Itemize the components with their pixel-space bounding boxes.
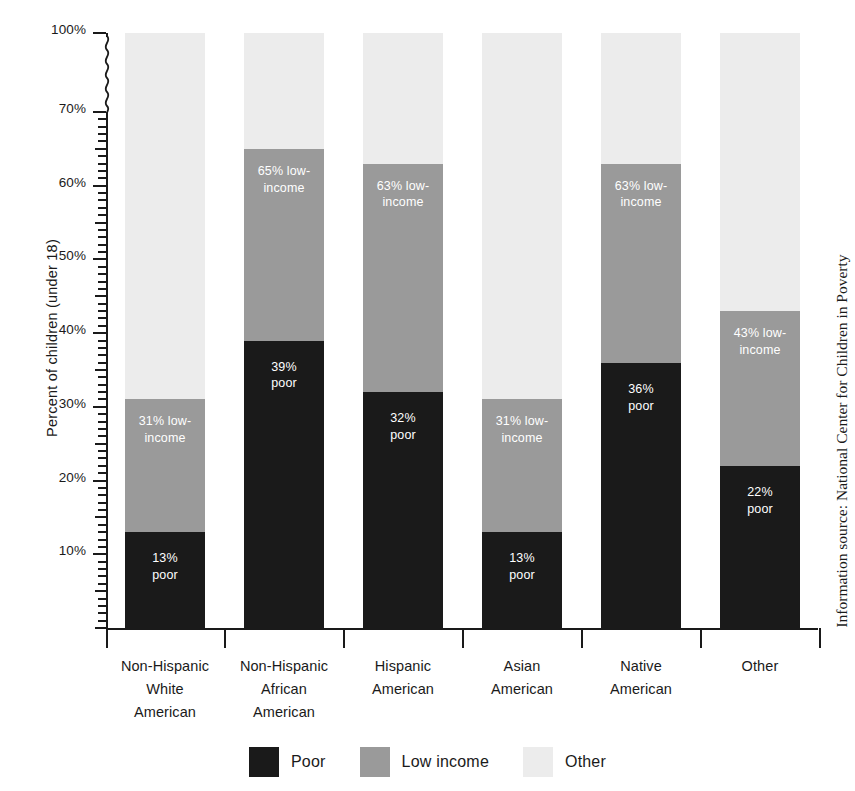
bar-1[interactable]: 31% low- income13% poor [125,33,205,628]
y-tick-minor [98,362,106,364]
x-axis-label-4: Asian American [463,655,581,701]
legend-item-poor[interactable]: Poor [249,747,326,777]
bar-segment-low-income: 63% low- income [363,164,443,393]
y-tick-minor [98,421,106,423]
y-tick-minor [95,369,106,371]
legend-swatch-icon [523,747,553,777]
bar-3[interactable]: 63% low- income32% poor [363,33,443,628]
y-tick-minor [98,391,106,393]
bar-label-poor: 36% poor [628,381,654,415]
y-tick-100: 100% [93,32,106,34]
bar-segment-poor: 13% poor [482,532,562,628]
bar-2[interactable]: 65% low- income39% poor [244,33,324,628]
y-tick-label: 20% [59,470,86,485]
y-tick-minor [98,140,106,142]
y-tick-10: 10% [93,553,106,555]
bar-4[interactable]: 31% low- income13% poor [482,33,562,628]
y-tick-minor [98,384,106,386]
y-tick-minor [98,303,106,305]
y-tick-minor [98,155,106,157]
x-axis-divider [106,628,108,648]
bar-segment-other [720,33,800,311]
y-tick-minor [98,450,106,452]
y-tick-minor [98,281,106,283]
y-tick-minor [98,214,106,216]
legend-label: Low income [402,753,489,771]
y-tick-minor [98,546,106,548]
y-tick-minor [98,133,106,135]
y-tick-minor [98,620,106,622]
y-tick-minor [98,244,106,246]
y-tick-minor [98,524,106,526]
bar-label-low-income: 43% low- income [734,325,787,359]
bar-label-poor: 22% poor [747,484,773,518]
x-axis-divider [343,628,345,648]
y-tick-minor [95,148,106,150]
bar-segment-low-income: 31% low- income [125,399,205,532]
y-tick-minor [98,509,106,511]
y-tick-minor [98,354,106,356]
x-axis-divider [819,628,821,648]
y-axis-title: Percent of children (under 18) [44,188,60,488]
bar-segment-poor: 36% poor [601,363,681,628]
x-axis-divider [700,628,702,648]
source-note: Information source: National Center for … [833,61,851,791]
chart-plot-area: 100%70%60%50%40%30%20%10% 31% low- incom… [106,33,818,628]
y-tick-minor [98,126,106,128]
y-tick-minor [98,347,106,349]
legend-swatch-icon [249,747,279,777]
y-tick-minor [98,266,106,268]
bar-5[interactable]: 63% low- income36% poor [601,33,681,628]
bar-label-poor: 13% poor [509,550,535,584]
bar-label-low-income: 63% low- income [615,178,668,212]
y-tick-70: 70% [93,111,106,113]
y-tick-minor [98,494,106,496]
y-tick-minor [98,273,106,275]
y-tick-20: 20% [93,480,106,482]
y-tick-minor [98,199,106,201]
y-tick-30: 30% [93,406,106,408]
x-axis-divider [462,628,464,648]
y-tick-minor [98,531,106,533]
y-tick-50: 50% [93,258,106,260]
y-tick-minor [98,118,106,120]
y-tick-minor [95,627,106,629]
x-axis-label-3: Hispanic American [344,655,462,701]
y-tick-minor [98,435,106,437]
bar-segment-other [125,33,205,399]
y-tick-minor [98,236,106,238]
y-tick-minor [98,376,106,378]
bar-label-low-income: 31% low- income [139,413,192,447]
y-tick-minor [95,295,106,297]
y-tick-minor [98,413,106,415]
y-tick-minor [98,561,106,563]
y-tick-minor [98,170,106,172]
legend-label: Poor [291,753,326,771]
x-axis-label-5: Native American [582,655,700,701]
bar-label-low-income: 63% low- income [377,178,430,212]
y-tick-60: 60% [93,185,106,187]
y-tick-label: 60% [59,175,86,190]
y-tick-minor [98,310,106,312]
bar-label-poor: 39% poor [271,359,297,393]
bar-segment-poor: 32% poor [363,392,443,628]
y-tick-minor [95,516,106,518]
legend-item-other[interactable]: Other [523,747,606,777]
bar-6[interactable]: 43% low- income22% poor [720,33,800,628]
y-tick-minor [98,229,106,231]
y-tick-minor [98,317,106,319]
y-tick-minor [98,605,106,607]
y-tick-minor [98,487,106,489]
y-tick-minor [98,465,106,467]
y-tick-minor [98,598,106,600]
y-tick-minor [95,590,106,592]
bar-segment-low-income: 43% low- income [720,311,800,466]
y-tick-minor [98,583,106,585]
y-tick-minor [98,502,106,504]
y-tick-label: 100% [51,22,86,37]
bar-segment-other [601,33,681,164]
legend-item-low-income[interactable]: Low income [360,747,489,777]
y-tick-minor [98,288,106,290]
bar-label-low-income: 65% low- income [258,163,311,197]
y-tick-minor [98,539,106,541]
